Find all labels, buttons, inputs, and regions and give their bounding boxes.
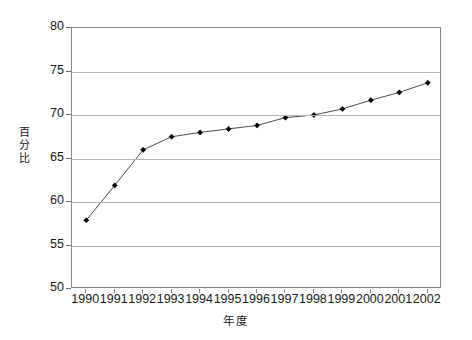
gridline — [72, 159, 440, 160]
series-polyline — [86, 83, 428, 220]
y-tick-label: 70 — [36, 106, 64, 120]
x-tick-label: 1991 — [100, 292, 128, 306]
gridline — [72, 115, 440, 116]
data-point-marker — [397, 90, 402, 95]
y-tick-mark — [66, 27, 71, 28]
y-tick-mark — [66, 158, 71, 159]
x-tick-label: 1999 — [327, 292, 355, 306]
x-tick-label: 1995 — [214, 292, 242, 306]
x-tick-label: 2001 — [384, 292, 412, 306]
x-tick-label: 1998 — [299, 292, 327, 306]
x-tick-mark — [228, 289, 229, 293]
y-tick-mark — [66, 114, 71, 115]
gridline — [72, 202, 440, 203]
data-point-marker — [340, 106, 345, 111]
plot-area — [71, 27, 441, 288]
x-tick-mark — [427, 289, 428, 293]
x-tick-mark — [398, 289, 399, 293]
line-chart-figure: 百 分 比 80757065605550 1990199119921993199… — [0, 0, 472, 340]
y-tick-mark — [66, 245, 71, 246]
x-tick-mark — [114, 289, 115, 293]
x-tick-label: 1994 — [185, 292, 213, 306]
x-tick-label: 1990 — [71, 292, 99, 306]
x-tick-mark — [284, 289, 285, 293]
y-tick-label: 80 — [36, 19, 64, 33]
data-point-marker — [226, 126, 231, 131]
y-tick-label: 55 — [36, 237, 64, 251]
y-tick-mark — [66, 71, 71, 72]
data-point-marker — [169, 134, 174, 139]
x-tick-mark — [370, 289, 371, 293]
y-axis-tick-labels: 80757065605550 — [36, 0, 66, 340]
x-tick-label: 1993 — [157, 292, 185, 306]
data-point-marker — [425, 80, 430, 85]
x-tick-mark — [313, 289, 314, 293]
x-tick-mark — [142, 289, 143, 293]
x-axis-tick-labels: 1990199119921993199419951996199719981999… — [71, 292, 441, 312]
x-tick-mark — [85, 289, 86, 293]
x-tick-label: 1997 — [271, 292, 299, 306]
x-tick-label: 1996 — [242, 292, 270, 306]
y-tick-label: 50 — [36, 280, 64, 294]
x-tick-label: 2000 — [356, 292, 384, 306]
gridline — [72, 72, 440, 73]
y-tick-label: 75 — [36, 63, 64, 77]
data-point-marker — [197, 130, 202, 135]
data-point-marker — [368, 98, 373, 103]
y-tick-mark — [66, 201, 71, 202]
x-tick-label: 1992 — [128, 292, 156, 306]
y-tick-label: 60 — [36, 193, 64, 207]
x-tick-mark — [341, 289, 342, 293]
x-tick-mark — [256, 289, 257, 293]
y-tick-label: 65 — [36, 150, 64, 164]
x-axis-title: 年度 — [0, 312, 472, 328]
x-tick-mark — [199, 289, 200, 293]
y-tick-mark — [66, 288, 71, 289]
x-tick-label: 2002 — [413, 292, 441, 306]
gridline — [72, 246, 440, 247]
data-point-marker — [254, 123, 259, 128]
x-tick-mark — [171, 289, 172, 293]
y-axis-title: 百 分 比 — [14, 126, 34, 165]
